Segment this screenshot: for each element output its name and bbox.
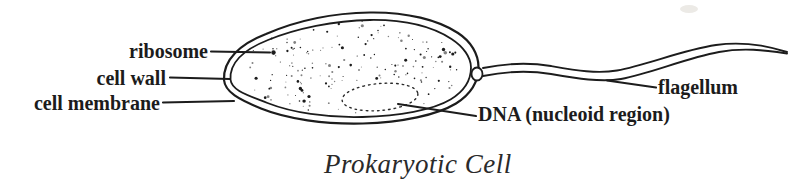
cell-membrane-leader-line bbox=[163, 101, 234, 103]
label-ribosome: ribosome bbox=[129, 40, 208, 62]
flagellum-leader-line bbox=[607, 81, 656, 88]
figure-caption: Prokaryotic Cell bbox=[324, 149, 512, 179]
label-flagellum: flagellum bbox=[658, 76, 738, 98]
flagellum-lower-line bbox=[483, 50, 787, 81]
label-cell-wall: cell wall bbox=[97, 67, 166, 89]
prokaryotic-cell-figure: ribosome cell wall cell membrane flagell… bbox=[0, 0, 796, 181]
flagellum-upper-line bbox=[483, 43, 787, 71]
label-cell-membrane: cell membrane bbox=[34, 92, 160, 114]
flagellum-basal-knob bbox=[472, 68, 483, 81]
scan-smudge bbox=[680, 5, 698, 13]
ribosome-leader-line bbox=[211, 52, 270, 53]
ribosome-pointer-dot bbox=[271, 50, 275, 54]
label-dna-nucleoid: DNA (nucleoid region) bbox=[478, 103, 670, 125]
cell-wall-leader-line bbox=[170, 78, 230, 80]
